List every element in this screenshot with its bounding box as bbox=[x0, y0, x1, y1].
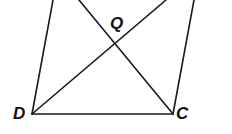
vertex-label-d: D bbox=[13, 105, 25, 122]
side-right bbox=[173, 0, 194, 114]
intersection-label-q: Q bbox=[110, 15, 123, 32]
diagonal-from-c bbox=[79, 0, 173, 114]
side-left bbox=[32, 0, 53, 114]
vertex-label-c: C bbox=[176, 105, 188, 122]
geometry-diagram: D C Q bbox=[0, 0, 232, 134]
diagonal-from-d bbox=[32, 0, 166, 114]
